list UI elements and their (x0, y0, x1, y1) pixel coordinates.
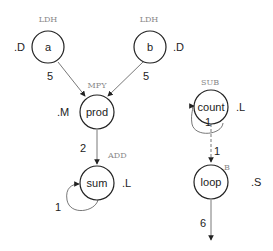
edge-a-prod (58, 62, 85, 96)
svg-text:.L: .L (236, 101, 245, 113)
node-loop: loop B .S (194, 163, 261, 199)
svg-text:a: a (45, 41, 52, 53)
node-count: count SUB .L (194, 78, 245, 124)
edge-b-prod (108, 62, 143, 96)
svg-text:MPY: MPY (88, 81, 108, 90)
node-a: a LDH .D (14, 15, 64, 63)
weight-b-prod: 5 (143, 70, 149, 82)
node-sum: sum ADD .L (80, 151, 131, 200)
weight-sum-self: 1 (55, 201, 61, 213)
svg-text:.L: .L (122, 177, 131, 189)
svg-text:LDH: LDH (39, 15, 58, 24)
svg-text:.M: .M (57, 106, 69, 118)
svg-text:count: count (198, 101, 225, 113)
svg-text:.S: .S (251, 176, 261, 188)
svg-text:b: b (147, 41, 153, 53)
svg-text:prod: prod (86, 106, 108, 118)
svg-text:B: B (224, 163, 230, 172)
svg-text:.D: .D (173, 41, 184, 53)
node-b: b LDH .D (134, 15, 184, 63)
svg-text:SUB: SUB (201, 78, 219, 87)
weight-count-loop: 1 (214, 145, 220, 157)
weight-loop-out: 6 (200, 217, 206, 229)
weight-count-self: 1 (205, 116, 211, 128)
weight-prod-sum: 2 (80, 142, 86, 154)
weight-a-prod: 5 (47, 70, 53, 82)
svg-text:loop: loop (201, 176, 222, 188)
node-prod: prod MPY .M (57, 81, 114, 129)
svg-text:LDH: LDH (140, 15, 159, 24)
svg-text:.D: .D (14, 41, 25, 53)
dependency-graph: a LDH .D b LDH .D prod MPY .M sum ADD .L… (0, 0, 273, 251)
svg-text:sum: sum (87, 177, 108, 189)
svg-text:ADD: ADD (107, 151, 127, 160)
